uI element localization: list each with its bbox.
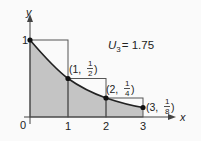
x-tick-3: 3 <box>140 120 146 132</box>
svg-text:): ) <box>131 83 135 95</box>
point-0-1 <box>27 37 32 42</box>
x-tick-1: 1 <box>65 120 71 132</box>
svg-text:(3,: (3, <box>146 101 158 113</box>
x-tick-2: 2 <box>103 120 109 132</box>
svg-text:2: 2 <box>88 69 93 78</box>
svg-text:1: 1 <box>165 97 170 106</box>
upper-sum-subscript: 3 <box>116 45 121 54</box>
y-tick-1: 1 <box>22 34 28 46</box>
point-2-quarter <box>103 95 108 100</box>
point-label-3: (3, 1 8 ) <box>146 97 175 116</box>
svg-text:): ) <box>94 63 98 75</box>
point-label-2: (2, 1 4 ) <box>106 79 135 98</box>
svg-text:8: 8 <box>165 107 170 116</box>
svg-text:): ) <box>171 101 175 113</box>
svg-text:(2,: (2, <box>106 83 118 95</box>
svg-text:1: 1 <box>88 59 93 68</box>
y-axis-label: y <box>25 6 33 18</box>
svg-text:4: 4 <box>125 89 130 98</box>
upper-sum-diagram: y x 0 1 2 3 1 U3= 1.75 (1, 1 2 ) (2, 1 4… <box>0 0 201 141</box>
point-1-half <box>65 76 70 81</box>
origin-label: 0 <box>20 119 26 131</box>
svg-text:(1,: (1, <box>69 63 81 75</box>
point-label-1: (1, 1 2 ) <box>69 59 98 78</box>
svg-text:1: 1 <box>125 79 130 88</box>
upper-sum-label: U3= 1.75 <box>108 39 154 54</box>
upper-sum-value: = 1.75 <box>122 39 154 51</box>
point-3-eighth <box>140 105 145 110</box>
x-axis-label: x <box>179 111 186 123</box>
